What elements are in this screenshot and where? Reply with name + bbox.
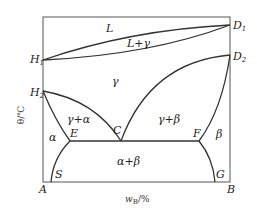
region-beta: β (215, 128, 222, 141)
label-f: F (192, 127, 201, 140)
label-h1: H1 (29, 53, 44, 67)
phase-diagram: H1 H2 D1 D2 A B C E F S G L L+γ γ γ+α γ+… (0, 0, 257, 214)
label-a: A (38, 183, 47, 196)
label-c: C (113, 124, 122, 137)
region-alpha: α (49, 131, 57, 144)
region-gamma: γ (112, 75, 119, 88)
region-alpha-beta: α+β (117, 155, 140, 168)
region-liquid: L (105, 22, 113, 35)
label-b: B (226, 183, 235, 196)
label-s: S (55, 168, 63, 181)
h2-e-curve (43, 91, 70, 141)
label-e: E (69, 127, 78, 140)
label-d1: D1 (232, 19, 246, 33)
d2-f-curve (199, 55, 230, 141)
f-g-curve (199, 141, 215, 182)
x-axis-label: wB/% (125, 194, 150, 206)
label-h2: H2 (29, 86, 45, 100)
region-liquid-gamma: L+γ (126, 37, 151, 50)
y-axis-label: θ/℃ (16, 106, 26, 125)
d2-c-curve (121, 55, 230, 141)
label-d2: D2 (232, 50, 247, 64)
region-gamma-beta: γ+β (158, 113, 180, 126)
label-g: G (216, 168, 225, 181)
region-gamma-alpha: γ+α (67, 113, 91, 126)
